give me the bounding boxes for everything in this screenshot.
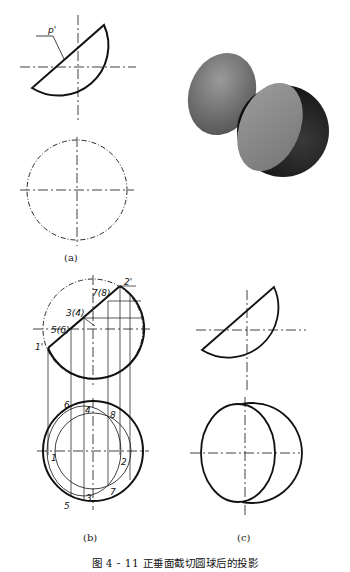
panel-a-front-view: [20, 15, 136, 123]
plane-label-p-prime: p': [47, 25, 56, 35]
point-label-6: 6: [64, 400, 70, 410]
panel-b-label: (b): [83, 532, 97, 543]
panel-a-top-view: [20, 137, 134, 246]
point-label-5: 5: [64, 501, 70, 511]
panel-c-front-view: [196, 287, 306, 390]
sphere-cut-3d-render: [177, 43, 329, 181]
point-label-7-8-prime: 7(8): [92, 288, 110, 298]
point-label-2: 2: [121, 457, 127, 467]
figure-canvas: p' 1' 2' 3(4) 5: [0, 0, 350, 572]
panel-b-front-view: [33, 275, 150, 500]
point-label-7: 7: [110, 487, 116, 497]
point-label-8: 8: [110, 410, 116, 420]
point-label-5-6-prime: 5(6): [51, 325, 69, 335]
figure-caption: 图 4 - 11 正垂面截切圆球后的投影: [0, 555, 350, 570]
panel-c-top-view: [190, 397, 302, 518]
point-label-3: 3: [86, 493, 92, 503]
point-label-1: 1: [51, 453, 57, 463]
point-label-4: 4: [85, 405, 91, 415]
point-label-1-prime: 1': [35, 342, 43, 352]
point-label-3-4-prime: 3(4): [66, 308, 84, 318]
point-label-2-prime: 2': [124, 277, 132, 287]
panel-a-label: (a): [64, 252, 78, 263]
panel-c-label: (c): [237, 532, 250, 543]
